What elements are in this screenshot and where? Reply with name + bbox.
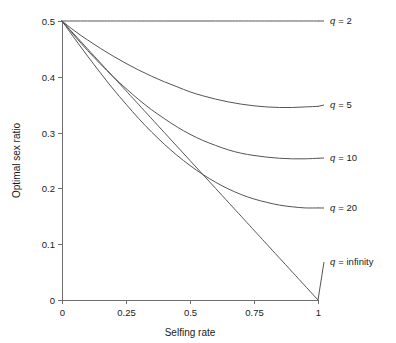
series-label-symbol: q <box>330 99 336 110</box>
tick-labels: 00.10.20.30.40.500.250.50.751 <box>42 16 321 318</box>
series-label-20: q= 20 <box>330 202 357 213</box>
x-axis-title: Selfing rate <box>165 327 216 338</box>
y-tick-label: 0 <box>50 295 55 306</box>
axes <box>58 21 319 304</box>
series-label-symbol: q <box>330 202 336 213</box>
series-label-symbol: q <box>330 15 336 26</box>
x-tick-label: 0.5 <box>184 307 197 318</box>
series-label-value: = 5 <box>338 99 351 110</box>
series-label-symbol: q <box>330 256 336 267</box>
series-labels: q= 2q= 5q= 10q= 20q= infinity <box>330 15 374 267</box>
leader-line <box>318 105 324 106</box>
series-label-infinity: q= infinity <box>330 256 374 267</box>
y-tick-label: 0.5 <box>42 16 55 27</box>
curve-infinity <box>62 21 318 300</box>
series-label-value: = 10 <box>338 152 357 163</box>
series-label-value: = infinity <box>338 256 373 267</box>
chart-figure: 00.10.20.30.40.500.250.50.751 q= 2q= 5q=… <box>0 0 396 343</box>
curve-10 <box>62 21 318 159</box>
y-tick-label: 0.4 <box>42 72 55 83</box>
x-tick-label: 0.25 <box>117 307 136 318</box>
series-label-2: q= 2 <box>330 15 352 26</box>
series-label-symbol: q <box>330 152 336 163</box>
label-leader-lines <box>318 21 324 300</box>
y-tick-label: 0.1 <box>42 239 55 250</box>
curve-20 <box>62 21 318 208</box>
x-tick-label: 0 <box>60 307 65 318</box>
x-tick-label: 0.75 <box>245 307 264 318</box>
y-tick-label: 0.3 <box>42 128 55 139</box>
y-tick-label: 0.2 <box>42 183 55 194</box>
chart-canvas: 00.10.20.30.40.500.250.50.751 q= 2q= 5q=… <box>0 0 396 343</box>
series-label-5: q= 5 <box>330 99 352 110</box>
series-label-value: = 2 <box>338 15 351 26</box>
series-label-value: = 20 <box>338 202 357 213</box>
series-label-10: q= 10 <box>330 152 357 163</box>
data-curves <box>62 21 318 300</box>
x-tick-label: 1 <box>316 307 321 318</box>
y-axis-title: Optimal sex ratio <box>11 123 22 198</box>
leader-line <box>318 262 324 300</box>
